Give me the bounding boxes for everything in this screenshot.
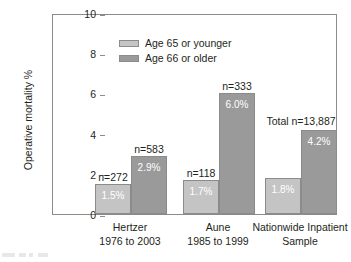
bar-aune-age-66-or-older: 6.0%n=333 bbox=[219, 93, 255, 214]
legend-swatch-age-65-or-younger bbox=[119, 40, 139, 47]
legend-swatch-age-66-or-older bbox=[119, 55, 139, 62]
bar-n-label: n=583 bbox=[118, 143, 180, 155]
x-axis-label-line: Sample bbox=[230, 235, 351, 249]
bar-hertzer-age-65-or-younger: 1.5%n=272 bbox=[95, 184, 131, 214]
y-tick-mark bbox=[100, 216, 105, 217]
bar-n-label: n=333 bbox=[206, 80, 268, 92]
y-tick-mark bbox=[100, 15, 105, 16]
y-axis-title: Operative mortality % bbox=[22, 30, 34, 210]
y-tick-label: 10 bbox=[84, 8, 96, 21]
legend-label-age-65-or-younger: Age 65 or younger bbox=[145, 37, 231, 49]
x-axis-label-nationwide-inpatient: Nationwide InpatientSample bbox=[230, 221, 351, 248]
bar-aune-age-65-or-younger: 1.7%n=118 bbox=[183, 180, 219, 214]
y-tick-mark bbox=[100, 95, 105, 96]
bar-nationwide-inpatient-sample-age-65-or-younger: 1.8% bbox=[265, 178, 301, 214]
legend-label-age-66-or-older: Age 66 or older bbox=[145, 52, 217, 64]
y-tick-label: 6 bbox=[90, 88, 96, 101]
x-axis-label-line: Nationwide Inpatient bbox=[230, 221, 351, 235]
bar-value-label: 1.8% bbox=[266, 184, 300, 195]
bar-value-label: 2.9% bbox=[132, 162, 166, 173]
bar-hertzer-age-66-or-older: 2.9%n=583 bbox=[131, 156, 167, 214]
y-tick-label: 4 bbox=[90, 129, 96, 142]
legend-item-age-66-or-older: Age 66 or older bbox=[119, 51, 231, 65]
y-tick-mark bbox=[100, 135, 105, 136]
legend: Age 65 or younger Age 66 or older bbox=[119, 36, 231, 66]
bar-nationwide-inpatient-sample-age-66-or-older: 4.2% bbox=[301, 130, 337, 214]
bar-value-label: 1.5% bbox=[96, 190, 130, 201]
y-tick-label: 8 bbox=[90, 48, 96, 61]
operative-mortality-bar-chart: Operative mortality % 1086420 Age 65 or … bbox=[0, 0, 351, 262]
y-tick-mark bbox=[100, 55, 105, 56]
cropped-caption-artifact bbox=[2, 253, 48, 258]
bar-value-label: 4.2% bbox=[302, 136, 336, 147]
bar-value-label: 1.7% bbox=[184, 186, 218, 197]
group-total-annotation: Total n=13,887 bbox=[241, 115, 351, 127]
bar-value-label: 6.0% bbox=[220, 99, 254, 110]
plot-area: 1086420 Age 65 or younger Age 66 or olde… bbox=[52, 14, 337, 215]
legend-item-age-65-or-younger: Age 65 or younger bbox=[119, 36, 231, 50]
